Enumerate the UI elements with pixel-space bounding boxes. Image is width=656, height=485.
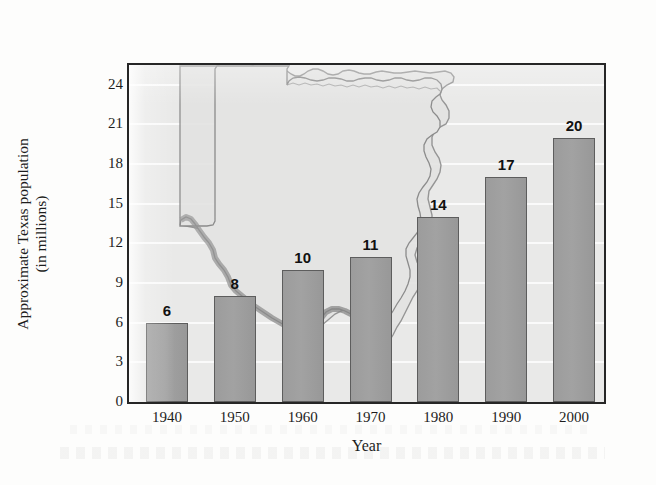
chart-page: Approximate Texas population (in million… [0, 0, 656, 485]
y-axis-tick-labels: 03691215182124 [85, 0, 123, 485]
bar-value-label: 8 [214, 276, 256, 291]
y-tick-label: 9 [89, 275, 123, 290]
gridline [129, 123, 604, 125]
y-tick-label: 12 [89, 235, 123, 250]
y-axis-title-line1: Approximate Texas population [14, 138, 32, 329]
x-tick-label: 1950 [203, 410, 267, 425]
y-axis-title: Approximate Texas population (in million… [0, 63, 64, 404]
bar [485, 177, 527, 402]
gridline [129, 163, 604, 165]
x-tick-label: 2000 [542, 410, 606, 425]
x-tick-label: 1970 [339, 410, 403, 425]
y-axis-title-line2: (in millions) [32, 138, 50, 329]
gridline [129, 84, 604, 86]
bar [417, 217, 459, 402]
bar-value-label: 11 [350, 237, 392, 252]
bar-value-label: 6 [146, 303, 188, 318]
x-axis-title: Year [127, 437, 606, 455]
y-tick-label: 15 [89, 196, 123, 211]
y-tick-label: 18 [89, 156, 123, 171]
bar-value-label: 14 [417, 197, 459, 212]
y-tick-label: 0 [89, 394, 123, 409]
bar [350, 257, 392, 402]
bar-value-label: 17 [485, 157, 527, 172]
plot-area [127, 63, 606, 404]
bar [282, 270, 324, 402]
y-tick-label: 24 [89, 77, 123, 92]
gridline [129, 203, 604, 205]
x-tick-label: 1980 [406, 410, 470, 425]
x-tick-label: 1990 [474, 410, 538, 425]
bar [146, 323, 188, 402]
x-tick-label: 1960 [271, 410, 335, 425]
y-tick-label: 6 [89, 315, 123, 330]
bar [214, 296, 256, 402]
bar-value-label: 20 [553, 118, 595, 133]
x-tick-label: 1940 [135, 410, 199, 425]
scan-bleed-artifact-secondary [70, 425, 590, 434]
y-tick-label: 21 [89, 116, 123, 131]
bar-value-label: 10 [282, 250, 324, 265]
y-tick-label: 3 [89, 354, 123, 369]
bar [553, 138, 595, 402]
